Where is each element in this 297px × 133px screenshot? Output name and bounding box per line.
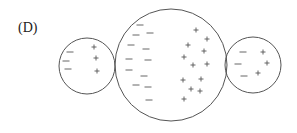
plus-charge-icon [265,61,270,66]
right-sphere [225,37,281,93]
plus-charge-icon [194,28,199,33]
plus-charge-icon [92,45,97,50]
plus-charge-icon [95,69,100,74]
plus-charge-icon [198,89,203,94]
plus-charge-icon [182,97,187,102]
plus-charge-icon [182,55,187,60]
plus-charge-icon [256,71,261,76]
sphere-outline [59,38,115,94]
left-sphere [59,38,115,94]
plus-charge-icon [199,77,204,82]
plus-charge-icon [94,56,99,61]
plus-charge-icon [186,43,191,48]
plus-charge-icon [202,49,207,54]
plus-charge-icon [261,50,266,55]
plus-charge-icon [191,63,196,68]
plus-charge-icon [205,37,210,42]
plus-charge-icon [181,78,186,83]
sphere-outline [115,9,227,121]
plus-charge-icon [189,87,194,92]
charge-spheres-diagram [0,0,297,133]
plus-charge-icon [205,62,210,67]
sphere-outline [225,37,281,93]
center-sphere [115,9,227,121]
